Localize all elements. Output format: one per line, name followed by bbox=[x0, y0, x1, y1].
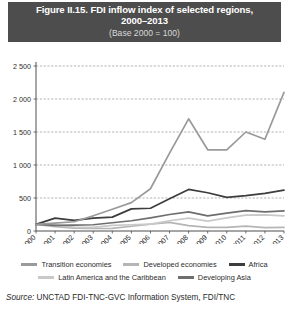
legend-swatch-icon bbox=[229, 263, 245, 265]
y-axis-tick-label: 500 bbox=[19, 194, 31, 203]
legend-item-1[interactable]: Developed economies bbox=[123, 260, 216, 269]
legend-label: Developing Asia bbox=[198, 273, 251, 282]
source-note: Source: UNCTAD FDI-TNC-GVC Information S… bbox=[6, 292, 289, 303]
chart-plot-area: 05001 0001 5002 0002 5002000200120022003… bbox=[0, 44, 289, 244]
x-axis-tick-label: 2002 bbox=[58, 233, 76, 244]
legend-label: Latin America and the Caribbean bbox=[58, 273, 166, 282]
y-axis-tick-label: 2 500 bbox=[13, 62, 31, 71]
x-axis-tick-label: 2004 bbox=[96, 233, 114, 244]
x-axis-tick-label: 2001 bbox=[39, 233, 57, 244]
figure-title-line2: 2000–2013 bbox=[121, 16, 168, 27]
source-label: Source: bbox=[6, 293, 34, 302]
x-axis-tick-label: 2008 bbox=[172, 233, 190, 244]
figure-title-band: Figure II.15. FDI inflow index of select… bbox=[8, 2, 281, 42]
legend-label: Developed economies bbox=[143, 260, 216, 269]
x-axis-tick-label: 2013 bbox=[268, 233, 286, 244]
series-line-africa bbox=[36, 189, 284, 224]
legend-item-2[interactable]: Africa bbox=[229, 260, 268, 269]
legend-swatch-icon bbox=[21, 263, 37, 265]
figure-container: Figure II.15. FDI inflow index of select… bbox=[0, 0, 289, 311]
x-axis-tick-label: 2009 bbox=[191, 233, 209, 244]
x-axis-tick-label: 2012 bbox=[249, 233, 267, 244]
legend-item-b-1[interactable]: Developing Asia bbox=[178, 273, 251, 282]
y-axis-tick-label: 1 500 bbox=[13, 128, 31, 137]
x-axis-tick-label: 2003 bbox=[77, 233, 95, 244]
chart-legend: Transition economiesDeveloped economiesA… bbox=[0, 258, 289, 288]
y-axis-tick-label: 2 000 bbox=[13, 95, 31, 104]
legend-swatch-icon bbox=[123, 263, 139, 265]
legend-label: Transition economies bbox=[41, 260, 111, 269]
x-axis-tick-label: 2007 bbox=[153, 233, 171, 244]
legend-label: Africa bbox=[249, 260, 268, 269]
y-axis-tick-label: 1 000 bbox=[13, 161, 31, 170]
legend-swatch-icon bbox=[178, 276, 194, 278]
legend-item-0[interactable]: Transition economies bbox=[21, 260, 111, 269]
series-line-transition-economies bbox=[36, 92, 284, 224]
legend-row-secondary: Latin America and the CaribbeanDevelopin… bbox=[0, 271, 289, 284]
legend-item-b-0[interactable]: Latin America and the Caribbean bbox=[38, 273, 166, 282]
source-text: UNCTAD FDI-TNC-GVC Information System, F… bbox=[34, 293, 235, 302]
x-axis-tick-label: 2005 bbox=[115, 233, 133, 244]
x-axis-tick-label: 2006 bbox=[134, 233, 152, 244]
line-chart: 05001 0001 5002 0002 5002000200120022003… bbox=[0, 44, 289, 244]
legend-swatch-icon bbox=[38, 276, 54, 278]
legend-row-primary: Transition economiesDeveloped economiesA… bbox=[0, 258, 289, 271]
x-axis-tick-label: 2011 bbox=[230, 233, 247, 244]
x-axis-tick-label: 2010 bbox=[211, 233, 229, 244]
figure-subtitle: (Base 2000 = 100) bbox=[109, 28, 180, 39]
x-axis-tick-label: 2000 bbox=[20, 233, 38, 244]
